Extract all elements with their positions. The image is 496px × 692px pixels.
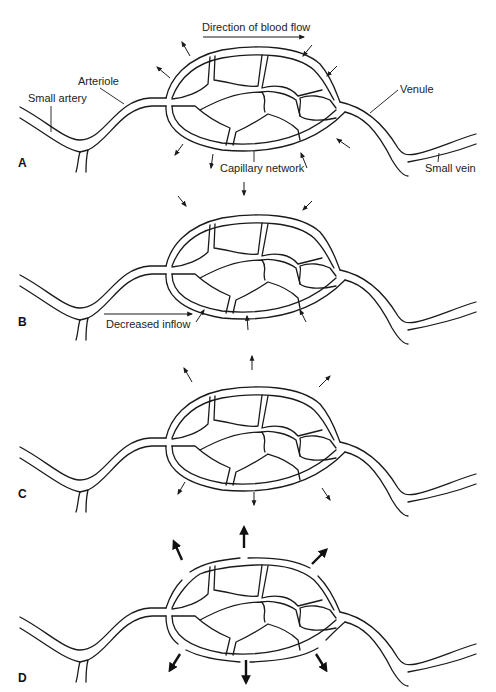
label-small-vein: Small vein (425, 162, 476, 174)
large-outflow-arrow-icon (316, 654, 326, 670)
capillary-figure: A Direction of blood flow Arteriole Smal… (0, 0, 496, 692)
label-small-artery: Small artery (28, 92, 87, 104)
panel-letter-d: D (18, 671, 27, 685)
label-capillary-network: Capillary network (220, 162, 305, 174)
panel-b: B Decreased inflow (18, 182, 476, 344)
label-direction-of-blood-flow: Direction of blood flow (202, 21, 310, 33)
outflow-arrow-icon (211, 154, 213, 168)
label-decreased-inflow: Decreased inflow (106, 318, 190, 330)
panel-letter-b: B (18, 315, 27, 329)
panel-d: D (18, 528, 476, 686)
inflow-arrow-icon (178, 196, 186, 206)
inflow-arrow-icon (337, 139, 350, 148)
outflow-arrow-icon (322, 488, 330, 500)
panel-letter-c: C (18, 487, 27, 501)
panel-c: C (18, 356, 476, 516)
inflow-arrow-icon (300, 310, 306, 322)
small-vein-leader-line (438, 153, 439, 162)
inflow-arrow-icon (303, 45, 312, 56)
fluid-arrows-a (157, 42, 350, 168)
venule-leader-line (370, 90, 398, 113)
fluid-arrows-b (178, 182, 312, 330)
label-venule: Venule (400, 83, 434, 95)
inflow-arrow-icon (327, 66, 337, 76)
outflow-arrow-icon (175, 144, 183, 155)
large-outflow-arrow-icon (312, 550, 326, 564)
panel-a: A Direction of blood flow Arteriole Smal… (18, 21, 476, 176)
panel-letter-a: A (18, 156, 27, 170)
fluid-arrows-c (178, 356, 330, 505)
inflow-arrow-icon (247, 316, 248, 330)
outflow-arrow-icon (184, 368, 192, 382)
label-arteriole: Arteriole (78, 75, 119, 87)
arteriole-leader-line (100, 88, 124, 104)
outflow-arrow-icon (182, 42, 190, 56)
outflow-arrow-icon (319, 376, 330, 387)
inflow-arrow-icon (303, 201, 312, 210)
outflow-arrow-icon (178, 482, 185, 494)
large-outflow-arrow-icon (170, 654, 180, 670)
large-outflow-arrow-icon (174, 542, 182, 560)
outflow-arrow-icon (157, 67, 170, 78)
